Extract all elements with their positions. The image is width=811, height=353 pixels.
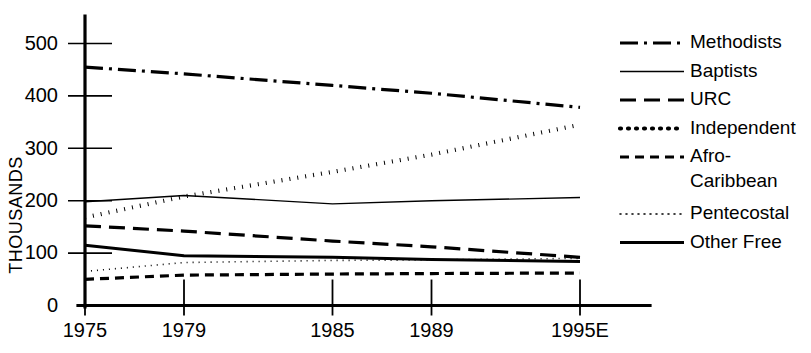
chart-container: THOUSANDS 0100200300400500 1975197919851… [0, 0, 811, 353]
series-line-afro-caribbean [85, 273, 580, 279]
x-tick-label: 1995E [551, 319, 609, 341]
legend-label-other-free[interactable]: Other Free [690, 231, 782, 252]
legend-label-methodists[interactable]: Methodists [690, 31, 782, 52]
legend-label-independent[interactable]: Independent [690, 117, 796, 138]
y-tick-label: 400 [25, 84, 58, 106]
y-tick-label: 500 [25, 32, 58, 54]
line-chart: THOUSANDS 0100200300400500 1975197919851… [0, 0, 811, 353]
y-tick-label: 300 [25, 137, 58, 159]
series-line-baptists [85, 195, 580, 203]
legend-label-pentecostal[interactable]: Pentecostal [690, 202, 789, 223]
x-tick-label: 1975 [63, 319, 108, 341]
x-tick-label: 1979 [162, 319, 207, 341]
y-axis-ticks: 0100200300400500 [25, 32, 112, 316]
x-axis-ticks: 19751979198519891995E [63, 280, 609, 341]
legend-label-afro-caribbean[interactable]: Afro- [690, 145, 731, 166]
x-tick-label: 1985 [310, 319, 355, 341]
chart-legend: MethodistsBaptistsURCIndependentAfro-Car… [620, 31, 796, 252]
y-axis-title: THOUSANDS [6, 156, 26, 274]
x-tick-label: 1989 [409, 319, 454, 341]
y-tick-label: 100 [25, 241, 58, 263]
legend-label-caribbean-line2[interactable]: Caribbean [690, 170, 778, 191]
legend-label-urc[interactable]: URC [690, 88, 731, 109]
y-tick-label: 0 [47, 294, 58, 316]
series-line-methodists [85, 67, 580, 107]
legend-label-baptists[interactable]: Baptists [690, 60, 758, 81]
series-group [85, 67, 580, 279]
y-tick-label: 200 [25, 189, 58, 211]
